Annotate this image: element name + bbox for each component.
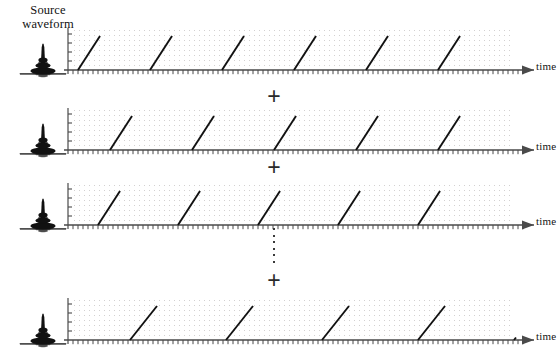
ellipsis-dot (273, 228, 275, 230)
sawtooth-ramp-train (130, 306, 516, 340)
sawtooth-ramp-train (110, 116, 460, 150)
ellipsis-dot (273, 241, 275, 243)
sawtooth-ramp-train (98, 191, 440, 225)
waveform-row-2: time (0, 102, 559, 160)
source-wavelet-burst (18, 34, 68, 80)
waveform-row-1: time (0, 22, 559, 80)
source-wavelet-burst (18, 189, 68, 235)
value-axis (68, 298, 72, 344)
ellipsis-dot (273, 248, 275, 250)
plus-operator: + (262, 84, 286, 108)
ellipsis-dot (273, 235, 275, 237)
time-axis-plot (64, 181, 556, 235)
source-wavelet-burst (18, 304, 68, 350)
waveform-row-3: time (0, 177, 559, 235)
time-axis-label: time (536, 140, 556, 152)
dotted-grid (74, 185, 510, 221)
plus-operator: + (262, 155, 286, 179)
sawtooth-ramp-train (78, 36, 460, 70)
plus-operator: + (262, 268, 286, 292)
waveform-row-4: time (0, 292, 559, 350)
time-axis (64, 65, 534, 74)
time-axis-label: time (536, 60, 556, 72)
time-axis (64, 335, 534, 344)
time-axis-plot (64, 26, 556, 80)
source-waveform-summation-figure: Source waveform time time time time + + … (0, 0, 559, 358)
time-axis (64, 220, 534, 229)
source-wavelet-burst (18, 114, 68, 160)
value-axis (68, 183, 72, 229)
value-axis (68, 108, 72, 154)
ellipsis-dot (273, 254, 275, 256)
value-axis (68, 28, 72, 74)
time-axis (64, 145, 534, 154)
time-axis-label: time (536, 330, 556, 342)
time-axis-plot (64, 106, 556, 160)
time-axis-label: time (536, 215, 556, 227)
time-axis-plot (64, 296, 556, 350)
dotted-grid (74, 300, 510, 336)
caption-line-1: Source (0, 4, 96, 18)
vertical-ellipsis (262, 228, 286, 268)
ellipsis-dot (273, 261, 275, 263)
